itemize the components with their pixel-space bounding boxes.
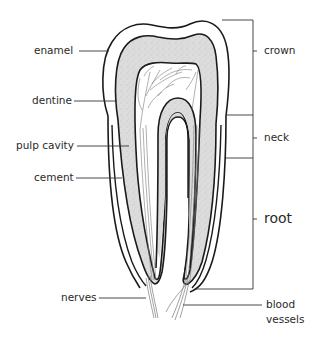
blood-vessels-exit (166, 278, 190, 320)
label-crown: crown (264, 45, 296, 56)
root-canal-fill (168, 118, 187, 198)
label-cement: cement (34, 172, 74, 183)
label-blood: blood (266, 299, 295, 310)
label-vessels: vessels (266, 314, 304, 325)
label-root: root (264, 211, 292, 225)
label-nerves: nerves (61, 292, 97, 303)
label-dentine: dentine (32, 95, 72, 106)
label-pulp-cavity: pulp cavity (16, 140, 74, 151)
label-neck: neck (264, 132, 289, 143)
neck-bracket (226, 115, 253, 158)
label-enamel: enamel (34, 45, 73, 56)
